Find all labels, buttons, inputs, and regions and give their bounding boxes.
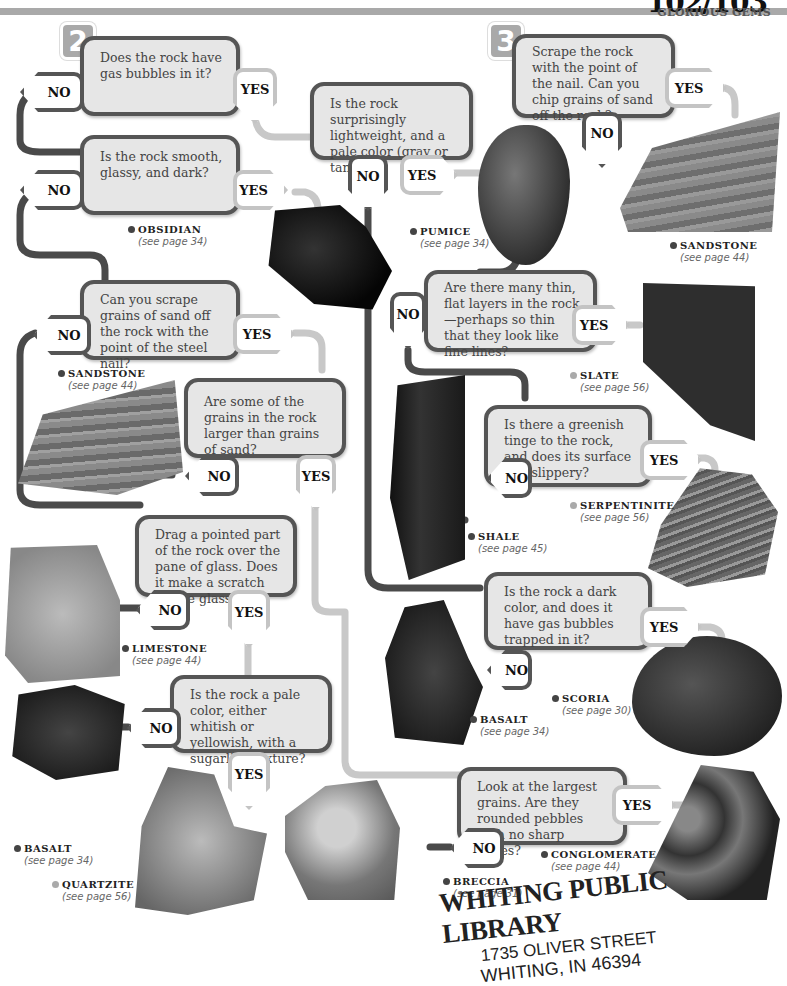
label-quartzite: QUARTZITE (see page 56): [52, 879, 134, 903]
label-basalt-left: BASALT (see page 34): [14, 843, 93, 867]
sedimentary-dot-icon: [443, 878, 450, 885]
sedimentary-dot-icon: [670, 242, 677, 249]
question-lightweight: Is the rock surprisingly lightweight, an…: [310, 82, 473, 160]
question-thin-layers: Are there many thin, flat layers in the …: [424, 270, 597, 352]
question-smooth-glassy: Is the rock smooth, glassy, and dark?: [80, 135, 240, 215]
question-scratch-glass: Drag a pointed part of the rock over the…: [135, 515, 297, 597]
metamorphic-dot-icon: [570, 372, 577, 379]
sedimentary-dot-icon: [468, 533, 475, 540]
label-pumice: PUMICE (see page 34): [410, 226, 489, 250]
question-dark-gas-bubbles: Is the rock a dark color, and does it ha…: [484, 572, 652, 650]
sedimentary-dot-icon: [58, 370, 65, 377]
label-sandstone-right: SANDSTONE (see page 44): [670, 240, 757, 264]
question-scrape-steel-nail: Can you scrape grains of sand off the ro…: [80, 280, 240, 360]
sedimentary-dot-icon: [122, 645, 129, 652]
label-serpentinite: SERPENTINITE (see page 56): [570, 500, 674, 524]
question-larger-grains: Are some of the grains in the rock large…: [184, 378, 346, 458]
label-obsidian: OBSIDIAN (see page 34): [128, 224, 207, 248]
label-slate: SLATE (see page 56): [570, 370, 649, 394]
metamorphic-dot-icon: [52, 881, 59, 888]
igneous-dot-icon: [128, 226, 135, 233]
limestone-image: [5, 545, 120, 683]
label-scoria: SCORIA (see page 30): [552, 693, 631, 717]
question-gas-bubbles: Does the rock have gas bubbles in it?: [80, 36, 240, 116]
label-limestone: LIMESTONE (see page 44): [122, 643, 207, 667]
scoria-image: [632, 636, 782, 756]
igneous-dot-icon: [552, 695, 559, 702]
label-basalt-mid: BASALT (see page 34): [470, 714, 549, 738]
question-scrape-nail: Scrape the rock with the point of the na…: [512, 34, 675, 118]
label-sandstone-left: SANDSTONE (see page 44): [58, 368, 145, 392]
metamorphic-dot-icon: [570, 502, 577, 509]
igneous-dot-icon: [470, 716, 477, 723]
label-shale: SHALE (see page 45): [468, 531, 547, 555]
sedimentary-dot-icon: [541, 851, 548, 858]
igneous-dot-icon: [14, 845, 21, 852]
igneous-dot-icon: [410, 228, 417, 235]
question-pale-sugarlike: Is the rock a pale color, either whitish…: [170, 675, 332, 753]
